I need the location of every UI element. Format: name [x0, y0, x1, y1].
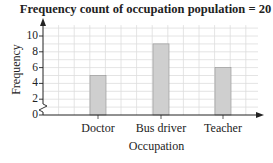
y-tick-label: 0 [32, 108, 38, 120]
y-tick-label: 6 [32, 61, 38, 73]
x-category-label: Teacher [204, 121, 242, 136]
bar-teacher [215, 68, 231, 115]
x-category-label: Bus driver [136, 121, 186, 136]
y-tick-label: 4 [32, 76, 38, 88]
x-axis-arrow-icon [256, 112, 264, 118]
y-tick-label: 8 [32, 45, 38, 57]
y-axis-arrow-icon [40, 18, 46, 26]
x-category-label: Doctor [81, 121, 114, 136]
y-tick-label: 2 [32, 92, 38, 104]
y-tick-label: 10 [27, 29, 39, 41]
y-axis-label: Frequency [9, 40, 24, 100]
x-axis-label: Occupation [0, 139, 273, 154]
bar-doctor [90, 76, 106, 116]
bar-bus-driver [153, 44, 169, 115]
